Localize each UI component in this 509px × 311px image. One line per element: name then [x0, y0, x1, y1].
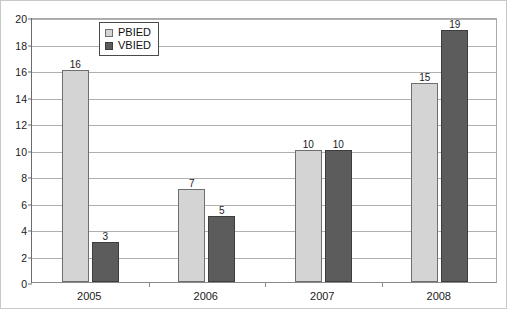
y-axis-tick-label: 8 [21, 173, 27, 184]
y-axis-tick-label: 12 [15, 120, 27, 131]
legend-swatch-pbied-icon [105, 29, 113, 37]
x-axis-tick-mark [382, 282, 383, 287]
y-axis-tick-label: 14 [15, 93, 27, 104]
bar-pbied-2005: 16 [62, 70, 89, 282]
y-axis-tick-label: 20 [15, 14, 27, 25]
bar-pbied-2007: 10 [295, 150, 322, 283]
bar-vbied-2006: 5 [208, 216, 235, 282]
bar-vbied-2007: 10 [325, 150, 352, 283]
y-axis-tick-label: 4 [21, 226, 27, 237]
y-axis-tick-mark [28, 19, 32, 20]
legend-entry-vbied: VBIED [105, 40, 151, 51]
legend-label-pbied: PBIED [118, 27, 151, 38]
chart-legend: PBIED VBIED [99, 22, 159, 56]
bar-value-label: 10 [303, 140, 314, 150]
y-axis-tick-label: 0 [21, 279, 27, 290]
legend-label-vbied: VBIED [118, 40, 151, 51]
y-axis-tick-mark [28, 178, 32, 179]
bar-pbied-2008: 15 [411, 83, 438, 282]
x-axis-label-2006: 2006 [194, 291, 218, 302]
y-axis-tick-label: 18 [15, 40, 27, 51]
legend-entry-pbied: PBIED [105, 27, 151, 38]
y-axis-tick-label: 6 [21, 199, 27, 210]
y-axis-tick-mark [28, 204, 32, 205]
bar-value-label: 19 [449, 20, 460, 30]
bar-pbied-2006: 7 [178, 189, 205, 282]
bar-value-label: 5 [219, 206, 225, 216]
bar-value-label: 7 [189, 179, 195, 189]
legend-swatch-vbied-icon [105, 42, 113, 50]
y-axis-tick-mark [28, 72, 32, 73]
y-axis-tick-mark [28, 151, 32, 152]
y-axis-tick-label: 10 [15, 146, 27, 157]
bar-value-label: 16 [70, 60, 81, 70]
y-axis-tick-mark [28, 45, 32, 46]
bar-value-label: 10 [333, 140, 344, 150]
plot-area: 024681012141618201637510101519 [31, 18, 497, 283]
y-axis-tick-mark [28, 98, 32, 99]
x-axis-tick-mark [149, 282, 150, 287]
y-axis-tick-mark [28, 125, 32, 126]
bar-chart: 024681012141618201637510101519 200520062… [0, 0, 509, 311]
x-axis-label-2007: 2007 [310, 291, 334, 302]
y-axis-tick-label: 2 [21, 252, 27, 263]
bar-vbied-2005: 3 [92, 242, 119, 282]
x-axis-label-2005: 2005 [77, 291, 101, 302]
x-axis-tick-mark [265, 282, 266, 287]
gridline [32, 19, 496, 20]
bar-value-label: 3 [102, 232, 108, 242]
bar-vbied-2008: 19 [441, 30, 468, 282]
y-axis-tick-mark [28, 284, 32, 285]
y-axis-tick-mark [28, 257, 32, 258]
y-axis-tick-label: 16 [15, 67, 27, 78]
x-axis-label-2008: 2008 [427, 291, 451, 302]
y-axis-tick-mark [28, 231, 32, 232]
bar-value-label: 15 [419, 73, 430, 83]
